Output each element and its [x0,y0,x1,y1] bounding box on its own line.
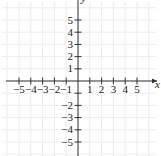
y-tick-label: 3 [68,38,74,50]
x-tick-label: −2 [49,83,61,95]
y-tick-label: −2 [61,99,73,111]
x-tick-label: −1 [60,83,72,95]
x-tick-label: 5 [134,83,140,95]
coordinate-plane: −5−4−3−2−11234554321−2−3−4−5 x y [0,0,161,156]
axes [6,0,157,156]
x-tick-label: 3 [111,83,117,95]
y-tick-label: −5 [61,136,73,148]
y-tick-label: −4 [61,123,73,135]
x-tick-label: 2 [99,83,105,95]
y-tick-label: 1 [68,62,74,74]
x-axis-label: x [154,78,160,90]
x-tick-label: −5 [13,83,25,95]
x-tick-label: 4 [122,83,128,95]
y-tick-label: −3 [61,111,73,123]
y-tick-label: 2 [68,50,74,62]
grid-lines [2,2,156,156]
x-tick-label: −3 [37,83,49,95]
y-tick-label: 4 [68,26,74,38]
y-axis-label: y [80,0,86,4]
x-tick-label: 1 [87,83,93,95]
x-tick-label: −4 [25,83,37,95]
y-tick-label: 5 [68,14,74,26]
